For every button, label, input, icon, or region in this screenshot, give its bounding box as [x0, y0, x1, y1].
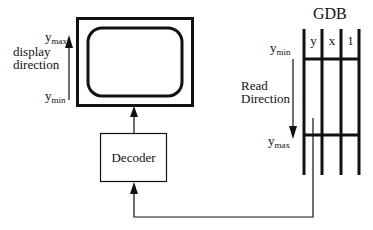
- decoder-to-display-arrowhead: [130, 106, 138, 117]
- display-screen: [88, 28, 182, 96]
- gdb-column-1: 1: [342, 34, 359, 48]
- gdb-ymin-label: ymin: [270, 41, 291, 59]
- display-direction-label-2: direction: [13, 58, 59, 72]
- gdb-table: [304, 29, 359, 175]
- gdb-ymax-label: ymax: [268, 134, 290, 152]
- gdb-to-decoder-path: [134, 118, 313, 217]
- ymin-sub: min: [52, 95, 66, 105]
- display-ymin-label: ymin: [45, 89, 66, 107]
- gdb-ymin-sub: min: [277, 47, 291, 57]
- gdb-to-decoder-arrowhead: [130, 182, 138, 194]
- gdb-column-x: x: [323, 34, 341, 48]
- decoder-label: Decoder: [100, 151, 167, 165]
- gdb-ymax-sub: max: [275, 140, 291, 150]
- read-direction-arrowhead: [289, 126, 297, 139]
- gdb-title: GDB: [313, 5, 347, 22]
- read-direction-label-2: Direction: [241, 92, 290, 106]
- ymax-sub: max: [52, 36, 68, 46]
- gdb-column-y: y: [305, 34, 322, 48]
